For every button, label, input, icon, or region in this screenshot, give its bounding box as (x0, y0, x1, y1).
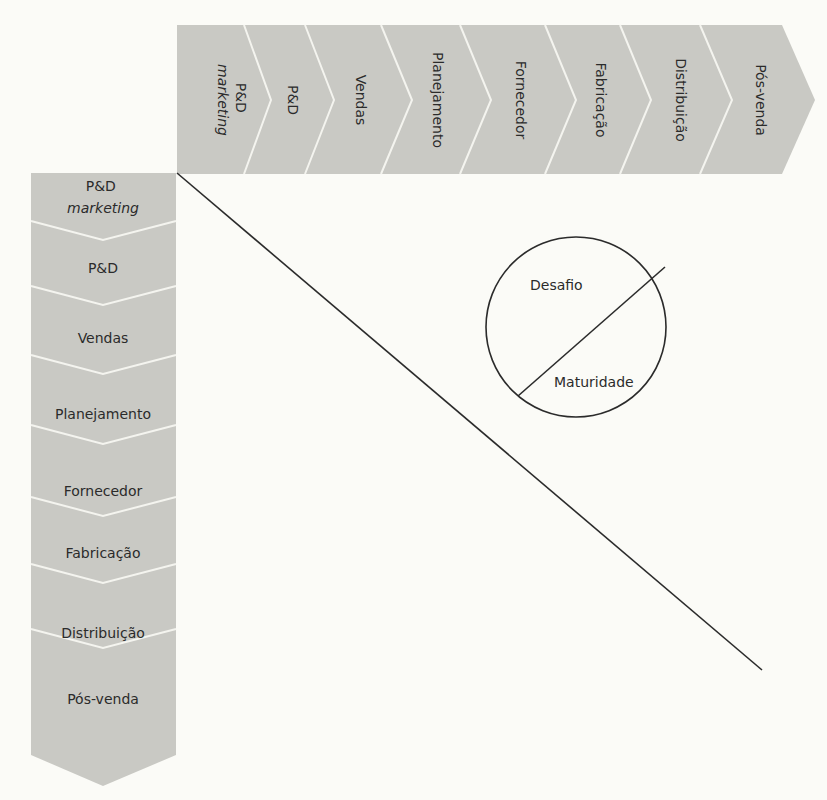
diagonal-line (177, 173, 762, 670)
left-stage-band: P&D marketing P&D Vendas Planejamento Fo… (31, 173, 176, 786)
top-stage-band: P&D marketing P&D Vendas Planejamento Fo… (177, 25, 815, 174)
left-stage-label-5: Fornecedor (64, 483, 143, 499)
left-stage-label-2: P&D (88, 260, 118, 276)
circle-outline (486, 237, 666, 417)
circle-label-maturidade: Maturidade (554, 374, 634, 390)
challenge-maturity-circle: Desafio Maturidade (486, 237, 666, 417)
top-stage-label-2: P&D (285, 85, 301, 115)
top-stage-label-7: Distribuição (673, 58, 689, 142)
top-stage-label-8: Pós-venda (753, 64, 769, 136)
left-stage-label-4: Planejamento (55, 406, 151, 422)
circle-label-desafio: Desafio (530, 277, 583, 293)
top-stage-label-6: Fabricação (593, 63, 609, 138)
left-stage-label-3: Vendas (78, 330, 129, 346)
left-stage-label-6: Fabricação (66, 545, 141, 561)
left-stage-label-8: Pós-venda (67, 691, 139, 707)
top-stage-label-3: Vendas (353, 75, 369, 126)
top-band-arrow-shape (177, 25, 815, 174)
left-stage-label-7: Distribuição (61, 625, 145, 641)
top-stage-label-5: Fornecedor (513, 61, 529, 140)
top-stage-label-4: Planejamento (430, 52, 446, 148)
value-chain-matrix-diagram: P&D marketing P&D Vendas Planejamento Fo… (0, 0, 827, 800)
